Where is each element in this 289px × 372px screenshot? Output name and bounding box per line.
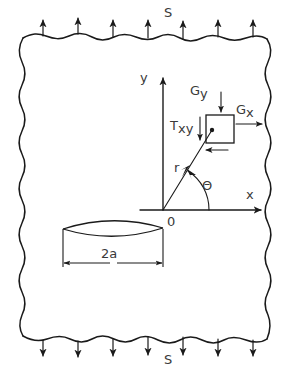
angle-label: Θ (202, 178, 212, 193)
diagram-canvas: S S y x 0 2a r Θ (0, 0, 289, 372)
remote-load-arrows-top (43, 18, 253, 39)
sigma-x-symbol: G (236, 102, 246, 117)
radius-label: r (174, 160, 180, 175)
plate-edge-right (265, 39, 271, 339)
tau-xy-subscript: xy (178, 121, 194, 136)
tau-xy-symbol: T (169, 118, 178, 133)
plate-edge-bottom (23, 336, 267, 343)
sigma-x-subscript: x (246, 105, 254, 120)
polar-coordinates (163, 130, 212, 210)
angle-arc-arrowhead (187, 169, 196, 180)
sigma-y-label: Gy (190, 83, 208, 101)
sigma-x-label: Gx (236, 102, 254, 120)
crack-upper-arc (63, 221, 163, 229)
remote-load-arrows-bottom (43, 337, 253, 357)
y-axis-label: y (140, 70, 148, 85)
remote-stress-label-top: S (164, 5, 172, 20)
fracture-mechanics-figure: S S y x 0 2a r Θ (0, 0, 289, 372)
remote-stress-label-bottom: S (164, 352, 172, 367)
crack-length-label: 2a (101, 246, 117, 261)
stress-element-center-point (210, 128, 214, 132)
tau-xy-indicator (200, 117, 228, 150)
plate-edge-top (23, 33, 267, 41)
tau-xy-label: Txy (169, 118, 194, 136)
crack-lower-arc (63, 228, 163, 236)
origin-label: 0 (167, 214, 175, 229)
sigma-y-subscript: y (200, 86, 208, 101)
plate-edge-left (19, 38, 25, 336)
stress-element (206, 115, 234, 143)
x-axis-label: x (246, 187, 254, 202)
crack-opening (63, 221, 163, 237)
sigma-y-symbol: G (190, 83, 200, 98)
